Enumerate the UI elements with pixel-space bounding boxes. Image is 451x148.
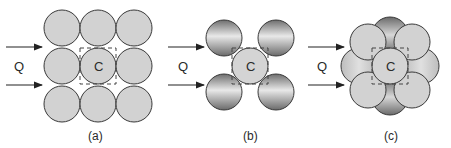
caption-a: (a) xyxy=(88,129,103,143)
panel-a: Q C (a) xyxy=(6,10,152,143)
flow-label-q: Q xyxy=(14,59,24,74)
caption-b: (b) xyxy=(243,129,258,143)
panel-b: Q C (b) xyxy=(168,20,294,143)
caption-c: (c) xyxy=(384,129,398,143)
figure-canvas: Q C (a) Q C (b) Q xyxy=(0,0,451,148)
center-label-c: C xyxy=(94,59,103,74)
panel-c: Q C (c) xyxy=(308,17,439,143)
center-label-c: C xyxy=(246,59,255,74)
flow-label-q: Q xyxy=(178,59,188,74)
flow-label-q: Q xyxy=(317,59,327,74)
center-label-c: C xyxy=(386,59,395,74)
